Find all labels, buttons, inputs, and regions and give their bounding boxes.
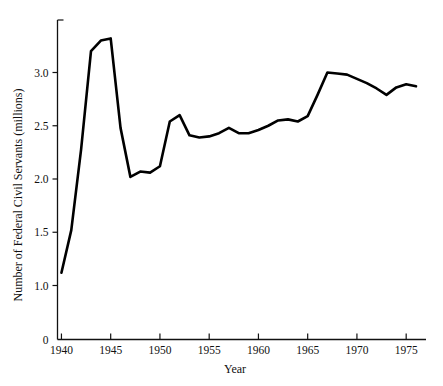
chart-figure: 01.01.52.02.53.0 19401945195019551960196… [0,0,443,386]
y-tick-label: 1.0 [34,280,49,292]
y-tick-label: 0 [43,334,49,346]
x-axis-title: Year [224,362,246,376]
y-tick-label: 1.5 [34,226,49,238]
plot-background [0,0,443,386]
x-tick-label: 1975 [395,344,418,356]
x-tick-label: 1945 [99,344,122,356]
y-axis-title: Number of Federal Civil Servants (millio… [11,89,25,302]
y-tick-label: 2.5 [34,120,49,132]
x-tick-label: 1965 [296,344,319,356]
x-tick-label: 1955 [198,344,221,356]
line-chart: 01.01.52.02.53.0 19401945195019551960196… [0,0,443,386]
y-tick-label: 3.0 [34,67,49,79]
x-tick-label: 1950 [148,344,171,356]
x-tick-label: 1940 [50,344,73,356]
y-tick-label: 2.0 [34,173,49,185]
x-tick-label: 1960 [247,344,270,356]
x-tick-label: 1970 [345,344,368,356]
